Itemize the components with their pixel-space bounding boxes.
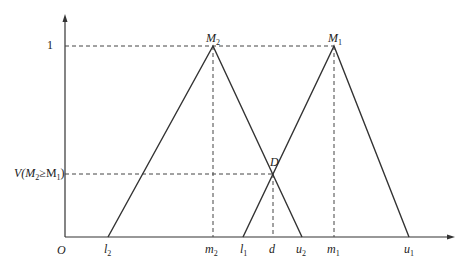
x-label-u1: u1 (404, 242, 414, 258)
point-label-d: D (270, 155, 279, 170)
l2-sub: 2 (107, 249, 111, 258)
x-label-d: d (269, 242, 275, 257)
x-label-m2: m2 (205, 242, 218, 258)
m1-sub: 1 (338, 38, 342, 47)
v-text: V(M (14, 166, 35, 180)
point-label-m1: M1 (328, 31, 342, 47)
y-tick-v: V(M2≥M1) (14, 166, 65, 182)
l1-sub: 1 (243, 249, 247, 258)
m2-sub: 2 (216, 38, 220, 47)
v-mid: ≥M (39, 166, 56, 180)
x-label-m1: m1 (327, 242, 340, 258)
origin-label: O (57, 243, 66, 258)
u1-sub: 1 (410, 249, 414, 258)
x-label-l1: l1 (240, 242, 247, 258)
m1-text: M (328, 31, 338, 45)
point-label-m2: M2 (206, 31, 220, 47)
x-label-l2: l2 (104, 242, 111, 258)
u2-sub: 2 (302, 249, 306, 258)
xm1-sub: 1 (336, 249, 340, 258)
xm2-sub: 2 (214, 249, 218, 258)
diagram-canvas (0, 0, 472, 268)
xm2-text: m (205, 242, 214, 256)
x-axis-arrow-icon (447, 235, 455, 240)
triangle-m2 (108, 46, 302, 237)
v-end: ) (61, 166, 65, 180)
y-tick-one: 1 (47, 38, 53, 53)
triangle-m1 (243, 46, 409, 237)
x-label-u2: u2 (296, 242, 306, 258)
m2-text: M (206, 31, 216, 45)
y-axis-arrow-icon (63, 14, 68, 22)
xm1-text: m (327, 242, 336, 256)
